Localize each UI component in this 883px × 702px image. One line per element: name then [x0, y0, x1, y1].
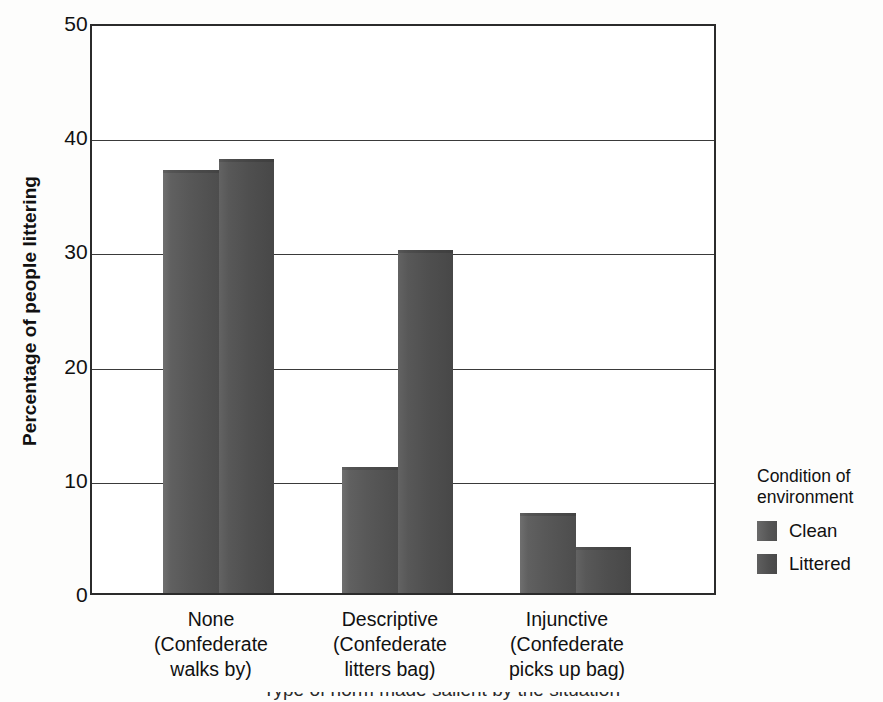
x-group-label-injunctive-line1: Injunctive — [467, 607, 667, 632]
x-group-label-none: None (Confederate walks by) — [111, 607, 311, 682]
chart-legend: Condition of environment Clean Littered — [757, 466, 883, 587]
x-group-label-injunctive-line2: (Confederate — [467, 632, 667, 657]
x-group-label-descriptive-line2: (Confederate — [290, 632, 490, 657]
bar-descriptive-clean — [342, 467, 398, 593]
x-axis-title-cropped: Type of norm made salient by the situati… — [0, 692, 883, 702]
legend-title-line1: Condition of — [757, 466, 850, 486]
y-tick-label-50: 50 — [28, 13, 88, 34]
legend-title-line2: environment — [757, 487, 853, 507]
legend-label-littered: Littered — [789, 554, 851, 574]
legend-label-clean: Clean — [789, 521, 837, 541]
x-group-label-descriptive: Descriptive (Confederate litters bag) — [290, 607, 490, 682]
bar-none-littered — [219, 159, 274, 593]
gridline-40 — [92, 140, 714, 141]
bar-injunctive-clean — [520, 513, 576, 593]
legend-swatch-littered-icon — [757, 554, 777, 574]
bar-descriptive-littered — [398, 250, 453, 593]
bar-injunctive-littered — [576, 547, 631, 593]
x-group-label-none-line2: (Confederate — [111, 632, 311, 657]
bar-chart: 50 40 30 20 10 0 Percentage of people li… — [0, 0, 883, 702]
legend-swatch-clean-icon — [757, 521, 777, 541]
legend-item-littered: Littered — [757, 554, 883, 574]
legend-title: Condition of environment — [757, 466, 877, 508]
x-group-label-injunctive-line3: picks up bag) — [467, 657, 667, 682]
legend-item-clean: Clean — [757, 521, 883, 541]
y-axis-title: Percentage of people littering — [19, 101, 41, 521]
x-axis-title-text: Type of norm made salient by the situati… — [0, 692, 883, 701]
plot-area — [90, 24, 716, 595]
x-group-label-none-line1: None — [111, 607, 311, 632]
x-group-label-none-line3: walks by) — [111, 657, 311, 682]
bar-none-clean — [163, 170, 219, 593]
x-group-label-descriptive-line3: litters bag) — [290, 657, 490, 682]
x-group-label-descriptive-line1: Descriptive — [290, 607, 490, 632]
x-group-label-injunctive: Injunctive (Confederate picks up bag) — [467, 607, 667, 682]
y-tick-label-0: 0 — [28, 584, 88, 605]
